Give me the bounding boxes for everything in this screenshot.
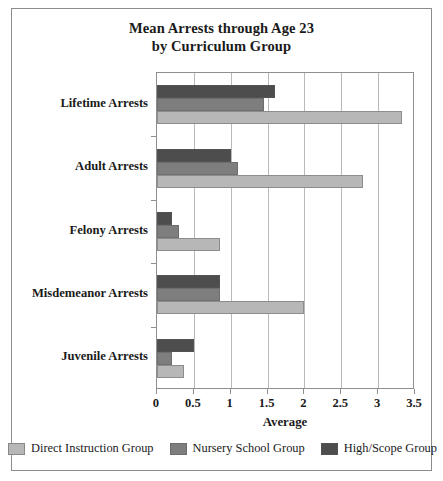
x-axis-tick <box>414 389 415 394</box>
plot-wrapper <box>156 72 414 389</box>
x-axis-tick-label: 3.5 <box>406 396 422 411</box>
x-axis-tick <box>340 389 341 394</box>
x-axis-tick-label: 0 <box>153 396 159 411</box>
legend-item: Direct Instruction Group <box>8 441 154 456</box>
bar <box>157 175 363 188</box>
x-axis-tick-label: 2.5 <box>332 396 348 411</box>
y-axis-category-label: Juvenile Arrests <box>8 349 148 364</box>
x-axis-title: Average <box>156 415 414 430</box>
bar <box>157 238 220 251</box>
legend-label: Nursery School Group <box>193 441 305 456</box>
x-axis-tick <box>377 389 378 394</box>
x-axis-tick <box>230 389 231 394</box>
legend-swatch <box>170 443 187 455</box>
x-axis-tick-label: 0.5 <box>185 396 201 411</box>
bar <box>157 162 238 175</box>
bar <box>157 85 275 98</box>
category-band <box>157 73 413 136</box>
legend-label: High/Scope Group <box>344 441 437 456</box>
x-axis-tick-label: 1 <box>227 396 233 411</box>
x-axis-tick <box>193 389 194 394</box>
chart-figure: Mean Arrests through Age 23 by Curriculu… <box>11 8 432 471</box>
legend-item: Nursery School Group <box>170 441 305 456</box>
category-band <box>157 136 413 199</box>
bar <box>157 275 220 288</box>
bar <box>157 339 194 352</box>
legend-label: Direct Instruction Group <box>31 441 154 456</box>
bar <box>157 288 220 301</box>
y-axis-category-label: Misdemeanor Arrests <box>8 286 148 301</box>
category-band <box>157 327 413 390</box>
x-axis-tick-label: 2 <box>300 396 306 411</box>
x-axis-tick <box>267 389 268 394</box>
bar <box>157 212 172 225</box>
bar <box>157 225 179 238</box>
legend-swatch <box>8 443 25 455</box>
bar <box>157 301 304 314</box>
y-axis-category-label: Felony Arrests <box>8 223 148 238</box>
bar <box>157 365 184 378</box>
x-axis-tick <box>303 389 304 394</box>
bar <box>157 111 402 124</box>
plot-area <box>156 72 414 389</box>
category-band <box>157 200 413 263</box>
x-axis-tick <box>156 389 157 394</box>
legend-item: High/Scope Group <box>321 441 437 456</box>
y-axis-category-label: Adult Arrests <box>8 159 148 174</box>
chart-title-line-1: Mean Arrests through Age 23 <box>129 20 314 36</box>
chart-title-line-2: by Curriculum Group <box>12 38 431 56</box>
x-axis-tick-label: 1.5 <box>259 396 275 411</box>
bar <box>157 149 231 162</box>
bar <box>157 352 172 365</box>
category-band <box>157 263 413 326</box>
legend-swatch <box>321 443 338 455</box>
y-axis-category-label: Lifetime Arrests <box>8 96 148 111</box>
x-axis-tick-label: 3 <box>374 396 380 411</box>
chart-legend: Direct Instruction GroupNursery School G… <box>12 441 433 456</box>
bar <box>157 98 264 111</box>
chart-title: Mean Arrests through Age 23 by Curriculu… <box>12 20 431 56</box>
